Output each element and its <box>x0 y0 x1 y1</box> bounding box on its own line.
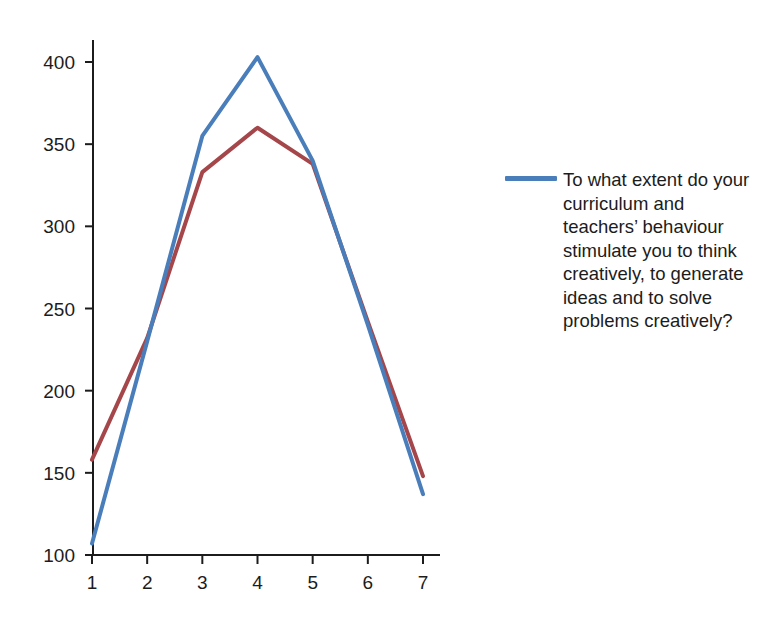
x-tick-label: 6 <box>363 572 374 593</box>
x-tick-label: 7 <box>418 572 429 593</box>
x-tick-label: 1 <box>87 572 98 593</box>
line-chart-svg: 100150200250300350400 1234567 <box>0 0 470 624</box>
series-line-red <box>92 128 423 476</box>
y-tick-label: 150 <box>43 463 75 484</box>
y-axis-ticks <box>85 62 93 555</box>
chart-figure: 100150200250300350400 1234567 To what ex… <box>0 0 780 624</box>
chart-legend: To what extent do your curriculum and te… <box>505 168 770 343</box>
plot-area: 100150200250300350400 1234567 <box>0 0 470 624</box>
y-tick-label: 300 <box>43 216 75 237</box>
legend-swatch-blue <box>505 176 557 181</box>
x-axis-ticks <box>92 555 423 564</box>
x-axis-tick-labels: 1234567 <box>87 572 429 593</box>
legend-item[interactable]: To what extent do your curriculum and te… <box>505 168 763 333</box>
x-tick-label: 4 <box>252 572 263 593</box>
legend-item-label: To what extent do your curriculum and te… <box>563 168 763 333</box>
x-tick-label: 2 <box>142 572 153 593</box>
y-tick-label: 250 <box>43 299 75 320</box>
y-tick-label: 400 <box>43 52 75 73</box>
y-axis-tick-labels: 100150200250300350400 <box>43 52 75 566</box>
y-tick-label: 100 <box>43 545 75 566</box>
x-tick-label: 3 <box>197 572 208 593</box>
x-tick-label: 5 <box>307 572 318 593</box>
y-tick-label: 200 <box>43 381 75 402</box>
y-tick-label: 350 <box>43 134 75 155</box>
